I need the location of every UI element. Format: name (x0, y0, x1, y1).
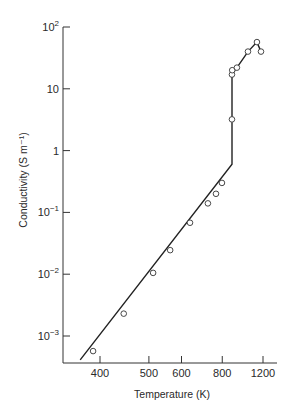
x-tick-label: 1200 (251, 367, 275, 379)
data-points (90, 39, 263, 354)
x-tick-label: 400 (91, 367, 109, 379)
y-tick-label: 10 (47, 83, 59, 95)
data-point-marker (254, 39, 260, 45)
data-point-marker (229, 117, 235, 123)
data-point-marker (121, 311, 127, 317)
y-tick-label: 10−2 (38, 266, 60, 280)
data-point-marker (245, 49, 251, 55)
x-axis-ticks: 4005006008001200 (91, 356, 275, 379)
x-tick-label: 800 (213, 367, 231, 379)
data-point-marker (234, 65, 240, 71)
x-tick-label: 600 (172, 367, 190, 379)
y-axis-ticks: 10210110−110−210−3 (38, 19, 70, 342)
y-tick-label: 102 (42, 19, 59, 33)
data-point-marker (187, 220, 193, 226)
data-curve (80, 42, 261, 360)
y-tick-label: 10−1 (38, 204, 60, 218)
y-axis-label: Conductivity (S m⁻¹) (17, 132, 29, 227)
x-axis-label: Temperature (K) (134, 388, 210, 400)
conductivity-vs-temperature-chart: 10210110−110−210−3 4005006008001200 Temp… (0, 0, 292, 420)
data-point-marker (219, 180, 225, 186)
data-point-marker (258, 49, 264, 55)
data-point-marker (213, 191, 219, 197)
data-point-marker (205, 201, 211, 207)
data-point-marker (150, 270, 156, 276)
data-point-marker (167, 247, 173, 253)
y-tick-label: 1 (53, 145, 59, 157)
data-point-marker (90, 348, 96, 354)
x-tick-label: 500 (140, 367, 158, 379)
plot-area: 10210110−110−210−3 4005006008001200 Temp… (0, 0, 292, 420)
y-tick-label: 10−3 (38, 328, 60, 342)
